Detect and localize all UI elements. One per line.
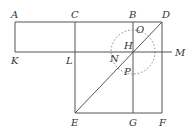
label-P: P — [123, 66, 131, 77]
label-D: D — [161, 9, 170, 20]
geometry-diagram: A C B D O H N M P K L E G F — [0, 0, 188, 131]
label-E: E — [70, 117, 79, 128]
label-K: K — [10, 55, 19, 66]
label-M: M — [174, 47, 186, 58]
diagonal-ED — [75, 22, 162, 113]
label-N: N — [109, 53, 120, 64]
label-C: C — [71, 9, 79, 20]
label-H: H — [123, 40, 133, 51]
label-L: L — [65, 55, 73, 66]
label-G: G — [129, 117, 137, 128]
label-B: B — [128, 9, 136, 20]
label-O: O — [136, 24, 144, 35]
label-F: F — [158, 117, 167, 128]
label-A: A — [10, 9, 18, 20]
